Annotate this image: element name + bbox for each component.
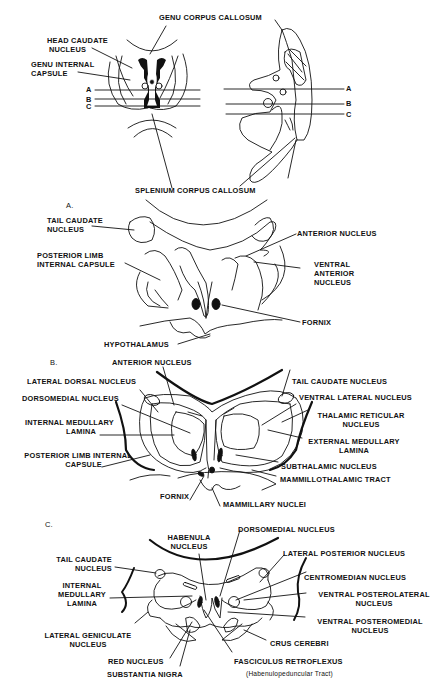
label-b-ventral-lateral-nucleus: VENTRAL LATERAL NUCLEUS [299, 393, 412, 402]
label-plane-b-right: B [346, 99, 352, 108]
label-genu-internal-capsule: GENU INTERNAL CAPSULE [31, 60, 94, 78]
label-b-posterior-limb-internal-capsule: POSTERIOR LIMB INTERNAL CAPSULE [6, 451, 132, 469]
label-b-mammillothalamic-tract: MAMMILLOTHALAMIC TRACT [280, 475, 391, 484]
label-a-hypothalamus: HYPOTHALAMUS [104, 340, 169, 349]
label-b-internal-medullary-lamina: INTERNAL MEDULLARY LAMINA [12, 418, 114, 436]
section-a-marker: A. [66, 201, 74, 210]
label-b-anterior-nucleus: ANTERIOR NUCLEUS [112, 358, 192, 367]
label-c-lateral-geniculate-nucleus: LATERAL GENICULATE NUCLEUS [38, 631, 138, 649]
label-b-fornix: FORNIX [160, 492, 189, 501]
label-c-crus-cerebri: CRUS CEREBRI [270, 639, 329, 648]
label-a-posterior-limb-internal-capsule: POSTERIOR LIMB INTERNAL CAPSULE [37, 251, 115, 269]
label-c-habenulopeduncular-tract: (Habenulopeduncular Tract) [246, 669, 333, 678]
thalamus-sections-diagram: GENU CORPUS CALLOSUM HEAD CAUDATE NUCLEU… [0, 0, 448, 680]
label-a-anterior-nucleus: ANTERIOR NUCLEUS [297, 229, 377, 238]
label-c-substantia-nigra: SUBSTANTIA NIGRA [107, 670, 183, 679]
label-a-ventral-anterior-nucleus: VENTRAL ANTERIOR NUCLEUS [314, 260, 354, 287]
label-c-ventral-posterolateral-nucleus: VENTRAL POSTEROLATERAL NUCLEUS [306, 590, 442, 608]
label-head-caudate-nucleus: HEAD CAUDATE NUCLEUS [47, 36, 108, 54]
label-b-mammillary-nuclei: MAMMILLARY NUCLEI [223, 500, 306, 509]
label-splenium-corpus-callosum: SPLENIUM CORPUS CALLOSUM [135, 186, 256, 195]
label-a-tail-caudate-nucleus: TAIL CAUDATE NUCLEUS [47, 216, 103, 234]
label-c-fasciculus-retroflexus: FASCICULUS RETROFLEXUS [234, 657, 343, 666]
section-b-marker: B. [50, 358, 58, 367]
section-b-drawing [100, 367, 312, 506]
label-plane-c-right: C [346, 110, 352, 119]
label-b-external-medullary-lamina: EXTERNAL MEDULLARY LAMINA [300, 437, 408, 455]
label-plane-a-left: A [86, 85, 92, 94]
section-a-drawing [92, 200, 300, 344]
label-b-tail-caudate-nucleus: TAIL CAUDATE NUCLEUS [292, 377, 387, 386]
label-c-habenula-nucleus: HABENULA NUCLEUS [165, 533, 213, 551]
label-b-lateral-dorsal-nucleus: LATERAL DORSAL NUCLEUS [27, 377, 136, 386]
label-b-subthalamic-nucleus: SUBTHALAMIC NUCLEUS [281, 462, 377, 471]
label-c-internal-medullary-lamina: INTERNAL MEDULLARY LAMINA [52, 581, 112, 608]
label-plane-a-right: A [346, 84, 352, 93]
overview-sagittal-view [224, 20, 344, 186]
label-c-tail-caudate-nucleus: TAIL CAUDATE NUCLEUS [40, 555, 112, 573]
label-b-dorsomedial-nucleus: DORSOMEDIAL NUCLEUS [22, 394, 119, 403]
label-plane-c-left: C [86, 102, 92, 111]
label-c-ventral-posteromedial-nucleus: VENTRAL POSTEROMEDIAL NUCLEUS [308, 617, 432, 635]
label-genu-corpus-callosum: GENU CORPUS CALLOSUM [159, 13, 262, 22]
label-a-fornix: FORNIX [302, 318, 331, 327]
label-c-lateral-posterior-nucleus: LATERAL POSTERIOR NUCLEUS [283, 549, 405, 558]
label-c-dorsomedial-nucleus: DORSOMEDIAL NUCLEUS [238, 525, 335, 534]
label-b-thalamic-reticular-nucleus: THALAMIC RETICULAR NUCLEUS [310, 411, 412, 429]
label-c-red-nucleus: RED NUCLEUS [108, 657, 164, 666]
section-c-marker: C. [45, 520, 53, 529]
label-c-centromedian-nucleus: CENTROMEDIAN NUCLEUS [304, 573, 406, 582]
